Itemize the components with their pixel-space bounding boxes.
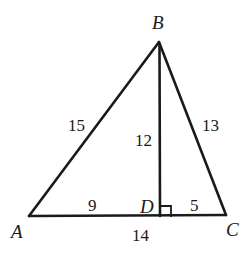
vertex-label-a: A (11, 222, 23, 241)
segment-ac (29, 215, 226, 216)
measure-label-bd: 12 (135, 132, 152, 149)
vertex-label-b: B (152, 13, 164, 32)
measure-label-dc: 5 (190, 197, 199, 214)
vertex-label-d: D (140, 197, 154, 216)
segment-bd-altitude (160, 44, 161, 216)
measure-label-bc: 13 (202, 117, 219, 134)
segment-ab (29, 42, 159, 216)
vertex-label-c: C (226, 220, 239, 239)
measure-label-ac: 14 (132, 227, 149, 244)
measure-label-ab: 15 (68, 117, 85, 134)
measure-label-ad: 9 (88, 197, 97, 214)
geometry-diagram: A B C D 15 13 12 9 5 14 (0, 0, 251, 256)
